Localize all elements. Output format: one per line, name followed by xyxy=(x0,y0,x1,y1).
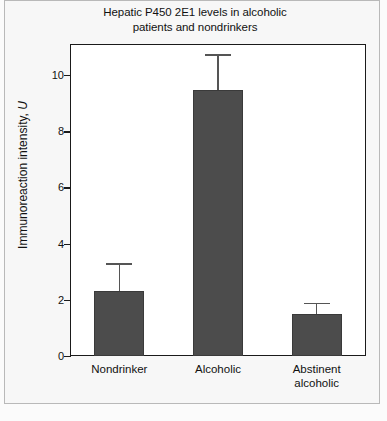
x-axis-tick-label-line: Abstinent xyxy=(267,362,366,376)
y-axis-tick-label: 8 xyxy=(40,125,64,137)
x-axis-tick-label: Nondrinker xyxy=(70,362,169,376)
y-axis-title: Immunoreaction intensity, U xyxy=(16,60,30,290)
figure: Hepatic P450 2E1 levels in alcoholic pat… xyxy=(0,0,387,421)
x-axis-tick-label-line: Alcoholic xyxy=(169,362,268,376)
y-axis-unit: U xyxy=(16,101,30,110)
y-axis-tick-label: 2 xyxy=(40,294,64,306)
x-axis-tick-label: Alcoholic xyxy=(169,362,268,376)
y-axis-tick-label: 4 xyxy=(40,238,64,250)
x-axis-tick-label: Abstinentalcoholic xyxy=(267,362,366,390)
x-axis-tick-label-line: alcoholic xyxy=(267,376,366,390)
y-axis-tick-label: 0 xyxy=(40,350,64,362)
x-axis-tick-label-line: Nondrinker xyxy=(70,362,169,376)
x-axis-tick-labels: NondrinkerAlcoholicAbstinentalcoholic xyxy=(70,0,366,421)
y-axis-title-text: Immunoreaction intensity, xyxy=(16,110,30,249)
y-axis-tick-label: 10 xyxy=(40,69,64,81)
y-axis-tick-label: 6 xyxy=(40,181,64,193)
y-axis-tick-labels: 0246810 xyxy=(38,44,64,356)
